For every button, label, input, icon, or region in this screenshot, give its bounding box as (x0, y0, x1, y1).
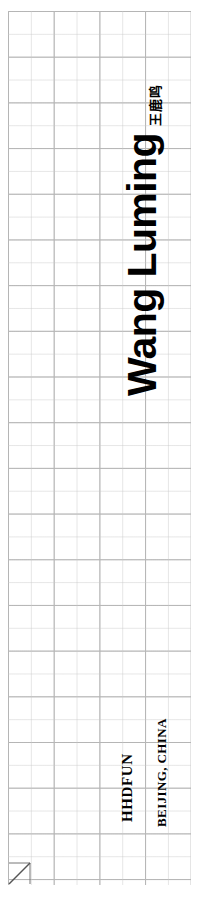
studio-location: BEIJING, CHINA (155, 718, 168, 827)
diagonal-arrow-icon (8, 862, 31, 885)
poster-canvas: Wang Luming 王鹿鸣 HHDFUN BEIJING, CHINA (0, 0, 198, 904)
page-title-cjk: 王鹿鸣 (149, 84, 162, 126)
diagonal-arrow-glyph (8, 862, 31, 885)
studio-name: HHDFUN (120, 753, 135, 822)
page-title: Wang Luming (122, 133, 163, 396)
